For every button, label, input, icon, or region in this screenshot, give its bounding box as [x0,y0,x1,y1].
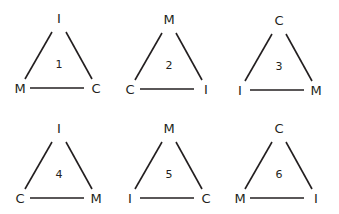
vertex-label-right: C [91,81,100,96]
edge-left [245,34,272,81]
edge-right [176,142,202,189]
triangle-1: IMC1 [14,11,100,96]
edge-left [25,142,52,189]
vertex-label-top: C [274,121,283,136]
triangle-3: CIM3 [238,13,322,98]
triangle-4: ICM4 [15,121,101,206]
vertex-label-left: M [14,81,25,96]
vertex-label-right: M [90,191,101,206]
vertex-label-left: C [125,82,134,97]
edge-right [176,33,202,80]
vertex-label-top: M [163,12,174,27]
edge-right [286,142,312,189]
vertex-label-top: I [57,121,61,136]
triangle-6: CMI6 [234,121,318,206]
vertex-label-top: C [274,13,283,28]
vertex-label-left: I [128,191,132,206]
triangle-number: 3 [276,60,283,73]
edge-left [25,32,52,79]
vertex-label-top: I [57,11,61,26]
vertex-label-left: I [238,83,242,98]
triangle-5: MIC5 [128,121,210,206]
edge-left [245,142,272,189]
edge-left [135,142,162,189]
vertex-label-left: M [234,191,245,206]
triangles-canvas: IMC1MCI2CIM3ICM4MIC5CMI6 [0,0,339,214]
triangle-number: 2 [166,59,173,72]
vertex-label-left: C [15,191,24,206]
vertex-label-right: I [314,191,318,206]
triangle-2: MCI2 [125,12,207,97]
vertex-label-right: M [310,83,321,98]
triangle-number: 5 [166,168,173,181]
edge-left [135,33,162,80]
triangle-diagram: IMC1MCI2CIM3ICM4MIC5CMI6 [0,0,339,214]
triangle-number: 1 [56,58,63,71]
edge-right [66,32,92,79]
vertex-label-top: M [163,121,174,136]
triangle-number: 6 [276,168,283,181]
edge-right [66,142,92,189]
vertex-label-right: C [201,191,210,206]
edge-right [286,34,312,81]
triangle-number: 4 [56,168,63,181]
vertex-label-right: I [204,82,208,97]
